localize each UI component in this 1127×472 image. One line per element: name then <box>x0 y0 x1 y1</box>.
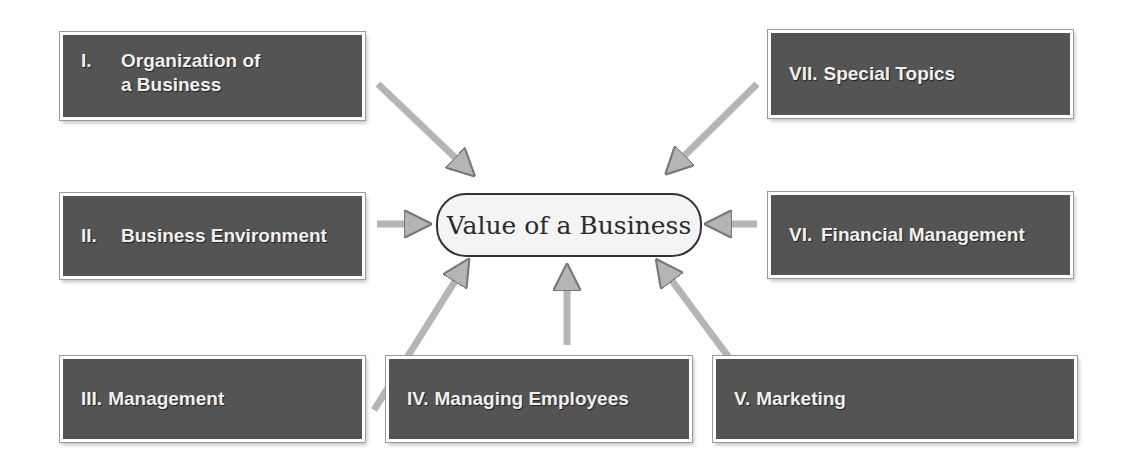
box-label: Business Environment <box>121 224 327 248</box>
box-label: Special Topics <box>824 62 956 86</box>
box-label: Financial Management <box>821 223 1025 247</box>
arrow-from-I <box>378 84 465 167</box>
arrow-from-VII <box>675 84 757 165</box>
box-organization-of-a-business: I. Organization of a Business <box>60 32 365 120</box>
box-financial-management: VI. Financial Management <box>768 192 1073 278</box>
numeral: V. <box>734 387 750 411</box>
numeral: I. <box>81 49 121 97</box>
box-label: Management <box>108 387 224 411</box>
box-label: Managing Employees <box>435 387 629 411</box>
box-business-environment: II. Business Environment <box>60 193 365 279</box>
numeral: VII. <box>789 62 818 86</box>
box-special-topics: VII. Special Topics <box>768 30 1073 118</box>
box-label-line1: Organization of <box>121 49 260 73</box>
numeral: IV. <box>407 387 429 411</box>
center-label: Value of a Business <box>447 211 691 240</box>
numeral: VI. <box>789 223 821 247</box>
box-marketing: V. Marketing <box>713 356 1077 442</box>
box-label: Marketing <box>756 387 846 411</box>
numeral: III. <box>81 387 102 411</box>
box-management: III. Management <box>60 356 365 442</box>
box-managing-employees: IV. Managing Employees <box>386 356 692 442</box>
numeral: II. <box>81 224 121 248</box>
box-label-line2: a Business <box>121 73 260 97</box>
center-node-value-of-a-business: Value of a Business <box>436 193 702 257</box>
